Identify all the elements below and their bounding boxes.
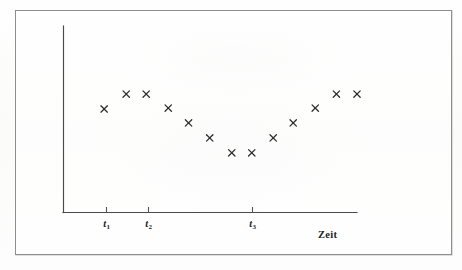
data-point-marker — [290, 120, 296, 126]
x-tick-label-t2: t2 — [145, 218, 152, 229]
tick-label-t3-subscript: 3 — [252, 223, 256, 231]
data-point-marker — [143, 91, 149, 97]
tick-label-t2-subscript: 2 — [148, 223, 152, 231]
tick-label-t1-subscript: 1 — [106, 223, 110, 231]
data-point-marker — [123, 91, 129, 97]
data-point-marker — [312, 105, 318, 111]
data-point-marker — [333, 91, 339, 97]
data-point-marker — [249, 150, 255, 156]
data-point-marker — [101, 106, 107, 112]
data-point-marker — [354, 91, 360, 97]
x-tick-label-t3: t3 — [249, 218, 256, 229]
data-point-marker — [270, 135, 276, 141]
data-point-marker — [229, 150, 235, 156]
data-point-marker — [165, 105, 171, 111]
scatter-plot-canvas — [0, 0, 462, 270]
x-axis-title: Zeit — [318, 229, 337, 240]
data-point-markers-group — [101, 91, 360, 156]
axes-group — [63, 26, 357, 213]
x-axis-ticks-group — [107, 207, 253, 213]
data-point-marker — [207, 135, 213, 141]
x-tick-label-t1: t1 — [103, 218, 110, 229]
data-point-marker — [185, 120, 191, 126]
figure-root: t1 t2 t3 Zeit — [0, 0, 462, 270]
